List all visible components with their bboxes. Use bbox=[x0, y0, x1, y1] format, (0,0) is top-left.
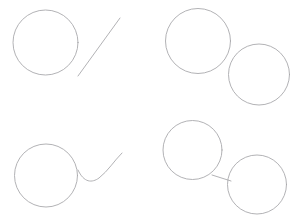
panel-bottom-right bbox=[163, 121, 287, 215]
diagonal-line bbox=[78, 18, 120, 76]
panel-top-left bbox=[13, 10, 120, 76]
circle bbox=[13, 10, 78, 75]
figures-svg bbox=[0, 0, 302, 221]
lower-right-circle bbox=[229, 44, 290, 105]
upper-left-circle bbox=[166, 9, 231, 74]
curved-tail bbox=[78, 153, 122, 181]
panel-bottom-left bbox=[15, 144, 123, 207]
drawing-canvas bbox=[0, 0, 302, 221]
panel-top-right bbox=[166, 9, 290, 106]
circle bbox=[15, 144, 78, 207]
lower-right-circle bbox=[228, 155, 287, 214]
upper-left-circle bbox=[163, 121, 222, 180]
